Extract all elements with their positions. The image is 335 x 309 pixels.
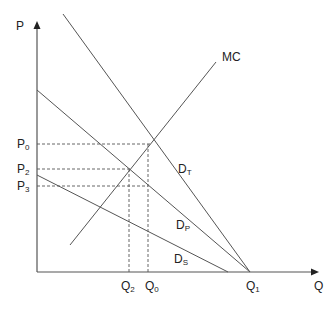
dp-label: DP <box>176 219 190 233</box>
p0-label: P0 <box>17 138 29 152</box>
q2-label: Q2 <box>121 280 135 294</box>
economics-diagram <box>0 0 335 309</box>
curve-ds <box>37 175 228 272</box>
q1-label: Q1 <box>246 280 260 294</box>
y-axis-arrow-icon <box>34 21 41 29</box>
x-axis-arrow-icon <box>311 269 319 276</box>
p3-label: P3 <box>17 180 29 194</box>
y-axis-label: P <box>16 20 24 32</box>
curve-mc <box>70 62 216 245</box>
x-axis-label: Q <box>314 280 323 292</box>
ds-label: DS <box>174 253 188 267</box>
p2-label: P2 <box>17 163 29 177</box>
q0-label: Q0 <box>145 280 159 294</box>
curve-dp <box>37 90 250 272</box>
dt-label: DT <box>178 163 192 177</box>
mc-label: MC <box>222 51 241 63</box>
